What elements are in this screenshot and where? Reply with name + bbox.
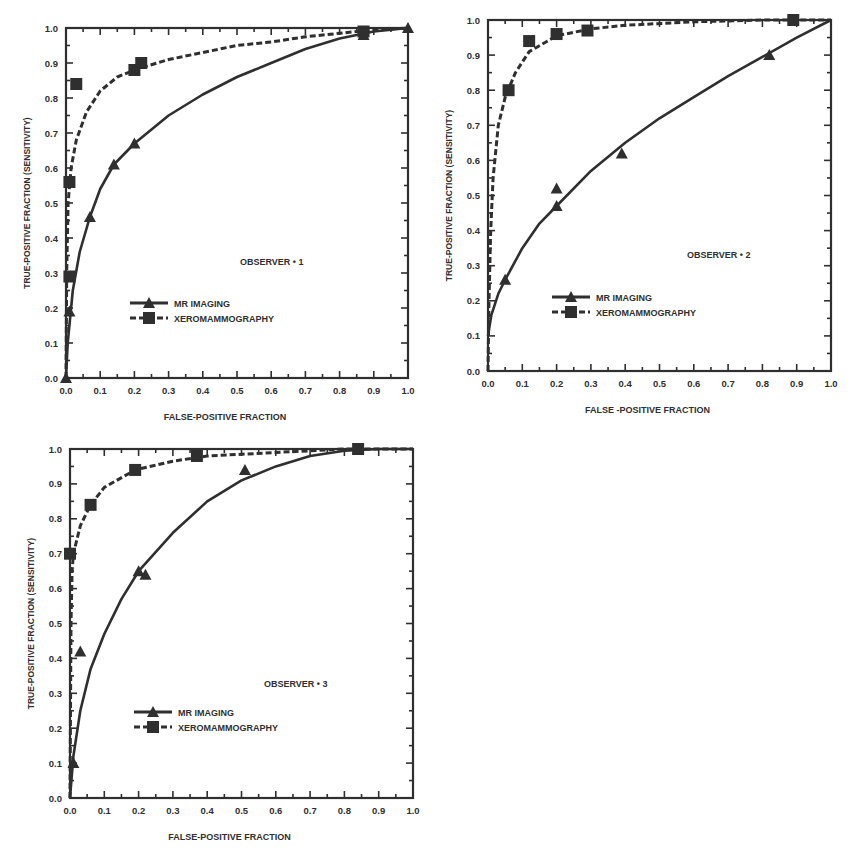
- square-marker-icon: [85, 499, 97, 511]
- x-tick-label: 0.1: [94, 385, 108, 396]
- observer-label: OBSERVER • 2: [687, 250, 751, 260]
- square-marker-icon: [63, 271, 75, 283]
- y-tick-label: 0.6: [467, 155, 480, 166]
- y-tick-label: 0.9: [45, 58, 58, 69]
- plot-frame: [70, 449, 413, 798]
- square-marker-icon: [129, 464, 141, 476]
- triangle-marker-icon: [84, 211, 96, 222]
- y-tick-label: 0.3: [49, 688, 62, 699]
- x-tick-label: 0.5: [653, 378, 667, 389]
- legend-entry: MR IMAGING: [178, 708, 234, 718]
- y-tick-label: 0.6: [49, 583, 62, 594]
- x-tick-label: 0.5: [230, 385, 244, 396]
- legend: MR IMAGINGXEROMAMMOGRAPHY: [552, 291, 696, 318]
- y-tick-label: 0.7: [49, 548, 62, 559]
- y-tick-label: 0.8: [49, 513, 62, 524]
- y-tick-label: 0.3: [467, 260, 480, 271]
- square-marker-icon: [523, 35, 535, 47]
- y-tick-label: 0.2: [45, 303, 58, 314]
- triangle-marker-icon: [551, 182, 563, 193]
- legend-entry: XEROMAMMOGRAPHY: [596, 308, 696, 318]
- roc-chart-observer-3: 0.00.10.20.30.40.50.60.70.80.91.00.00.10…: [4, 429, 434, 858]
- square-marker-icon: [352, 443, 364, 455]
- y-tick-label: 0.1: [45, 338, 59, 349]
- mr-imaging-curve: [488, 20, 831, 336]
- x-tick-label: 1.0: [406, 805, 419, 816]
- y-tick-label: 0.0: [45, 373, 58, 384]
- legend: MR IMAGINGXEROMAMMOGRAPHY: [134, 706, 278, 733]
- y-tick-label: 0.5: [45, 198, 59, 209]
- y-tick-label: 0.5: [49, 618, 63, 629]
- legend-square-icon: [143, 312, 155, 324]
- x-tick-label: 0.7: [303, 805, 316, 816]
- y-tick-label: 0.2: [467, 295, 480, 306]
- x-tick-label: 0.1: [516, 378, 530, 389]
- x-tick-label: 0.2: [128, 385, 141, 396]
- y-tick-label: 0.3: [45, 268, 58, 279]
- y-tick-label: 0.8: [45, 93, 58, 104]
- x-tick-label: 0.8: [338, 805, 351, 816]
- legend-entry: MR IMAGING: [174, 299, 230, 309]
- x-tick-label: 0.6: [265, 385, 278, 396]
- x-tick-label: 0.4: [619, 378, 633, 389]
- y-tick-label: 0.1: [467, 330, 481, 341]
- y-axis-label: TRUE-POSITIVE FRACTION (SENSITIVITY): [444, 110, 454, 282]
- legend-entry: XEROMAMMOGRAPHY: [174, 314, 274, 324]
- x-tick-label: 0.0: [59, 385, 72, 396]
- y-axis-label: TRUE-POSITIVE FRACTION (SENSITIVITY): [26, 538, 36, 710]
- x-axis-label: FALSE -POSITIVE FRACTION: [585, 405, 710, 415]
- y-tick-label: 0.4: [45, 233, 59, 244]
- mr-imaging-curve: [66, 28, 408, 378]
- y-tick-label: 0.7: [45, 128, 58, 139]
- y-axis-label: TRUE-POSITIVE FRACTION (SENSITIVITY): [22, 117, 32, 289]
- y-tick-label: 0.5: [467, 190, 481, 201]
- y-tick-label: 1.0: [49, 444, 62, 455]
- xeromammography-curve: [70, 449, 413, 798]
- legend-square-icon: [565, 306, 577, 318]
- square-marker-icon: [63, 176, 75, 188]
- y-tick-label: 0.1: [49, 758, 63, 769]
- legend: MR IMAGINGXEROMAMMOGRAPHY: [130, 297, 274, 324]
- xeromammography-curve: [488, 20, 831, 371]
- x-tick-label: 0.2: [132, 805, 145, 816]
- x-tick-label: 0.7: [721, 378, 734, 389]
- y-tick-label: 0.9: [467, 50, 480, 61]
- x-tick-label: 0.3: [162, 385, 175, 396]
- y-tick-label: 0.2: [49, 723, 62, 734]
- square-marker-icon: [358, 26, 370, 38]
- y-tick-label: 0.9: [49, 478, 62, 489]
- xeromammography-curve: [66, 28, 408, 378]
- plot-frame: [488, 20, 831, 371]
- x-tick-label: 0.3: [166, 805, 179, 816]
- y-tick-label: 0.8: [467, 85, 480, 96]
- x-tick-label: 0.6: [269, 805, 282, 816]
- x-tick-label: 0.9: [372, 805, 385, 816]
- square-marker-icon: [503, 84, 515, 96]
- y-tick-label: 0.0: [467, 366, 480, 377]
- y-tick-label: 0.0: [49, 793, 62, 804]
- square-marker-icon: [581, 25, 593, 37]
- roc-chart-observer-1: 0.00.10.20.30.40.50.60.70.80.91.00.00.10…: [0, 0, 430, 430]
- x-tick-label: 0.7: [299, 385, 312, 396]
- legend-entry: XEROMAMMOGRAPHY: [178, 723, 278, 733]
- square-marker-icon: [551, 28, 563, 40]
- x-tick-label: 0.9: [367, 385, 380, 396]
- y-tick-label: 0.4: [49, 653, 63, 664]
- x-tick-label: 0.9: [790, 378, 803, 389]
- square-marker-icon: [135, 57, 147, 69]
- x-tick-label: 0.2: [550, 378, 563, 389]
- y-tick-label: 0.6: [45, 163, 58, 174]
- mr-imaging-curve: [70, 449, 413, 798]
- x-axis-label: FALSE-POSITIVE FRACTION: [168, 832, 291, 842]
- y-tick-label: 1.0: [467, 15, 480, 26]
- x-tick-label: 0.0: [481, 378, 494, 389]
- legend-square-icon: [147, 721, 159, 733]
- triangle-marker-icon: [74, 645, 86, 656]
- square-marker-icon: [64, 548, 76, 560]
- triangle-marker-icon: [239, 464, 251, 475]
- square-marker-icon: [191, 450, 203, 462]
- y-tick-label: 1.0: [45, 23, 58, 34]
- roc-chart-observer-2: 0.00.10.20.30.40.50.60.70.80.91.00.00.10…: [422, 0, 852, 430]
- x-tick-label: 0.4: [196, 385, 210, 396]
- triangle-marker-icon: [499, 274, 511, 285]
